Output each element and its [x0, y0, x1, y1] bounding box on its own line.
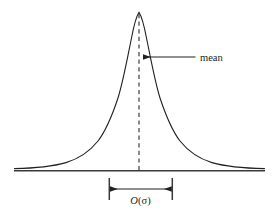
width-label-close-paren: ) — [147, 195, 151, 207]
width-dimension-label: O(σ) — [130, 195, 151, 207]
figure-canvas: mean O(σ) — [0, 0, 279, 215]
normal-distribution-figure: mean O(σ) — [0, 0, 279, 215]
mean-label: mean — [200, 52, 223, 63]
